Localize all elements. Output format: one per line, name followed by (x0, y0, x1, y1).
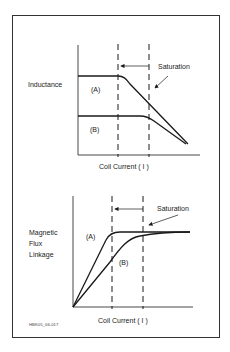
bottom-curve-a (73, 232, 190, 307)
top-saturation-arrow-down (155, 76, 168, 88)
bottom-curve-b (73, 232, 190, 307)
bottom-curve-a-label: (A) (86, 233, 95, 240)
top-saturation-label: Saturation (158, 63, 190, 70)
top-curve-a-label: (A) (91, 86, 100, 93)
bottom-ylabel-line-3: Linkage (29, 251, 54, 258)
bottom-xlabel: Coil Current ( I ) (98, 317, 148, 324)
bottom-ylabel-line-1: Magnetic (29, 229, 57, 236)
bottom-ylabel-line-2: Flux (29, 240, 42, 247)
inductance-graph (78, 44, 200, 157)
bottom-saturation-label: Saturation (157, 205, 189, 212)
diagram-svg (0, 0, 230, 352)
flux-linkage-graph (73, 196, 193, 309)
bottom-curve-b-label: (B) (119, 259, 128, 266)
top-xlabel: Coil Current ( I ) (99, 163, 149, 170)
top-ylabel: Inductance (28, 81, 62, 88)
bottom-saturation-arrow-down (149, 215, 178, 225)
figure-id: HBK05_06-017 (29, 322, 58, 327)
top-curve-b-label: (B) (90, 126, 99, 133)
